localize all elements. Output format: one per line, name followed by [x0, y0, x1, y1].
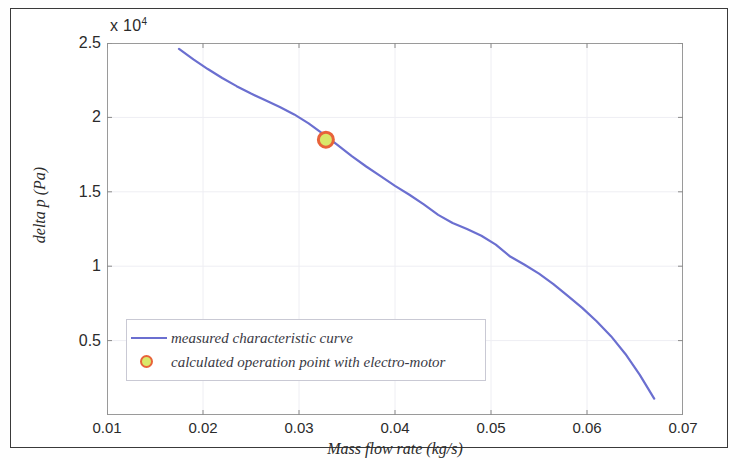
- chart-legend: measured characteristic curve calculated…: [126, 319, 486, 381]
- legend-label-measured-curve: measured characteristic curve: [171, 330, 353, 347]
- legend-item-measured-curve: measured characteristic curve: [127, 326, 485, 350]
- y-axis-title: delta p (Pa): [31, 105, 49, 305]
- legend-label-operation-point: calculated operation point with electro-…: [171, 354, 445, 371]
- operation-point-marker: [318, 132, 333, 147]
- circle-marker-icon: [140, 355, 153, 368]
- figure-container: x 104 0.511.522.5 0.010.020.030.040.050.…: [0, 0, 740, 460]
- legend-item-operation-point: calculated operation point with electro-…: [127, 350, 485, 374]
- y-axis-exponent-text: x 10: [110, 17, 141, 34]
- y-axis-exponent-label: x 104: [110, 16, 147, 35]
- x-axis-tick-label: 0.02: [188, 419, 217, 436]
- y-axis-tick-label: 2: [92, 108, 101, 126]
- y-axis-tick-label: 2.5: [79, 34, 101, 52]
- x-axis-tick-label: 0.06: [572, 419, 601, 436]
- legend-line-sample: [127, 327, 171, 349]
- x-axis-tick-label: 0.03: [284, 419, 313, 436]
- x-axis-tick-label: 0.04: [380, 419, 409, 436]
- y-axis-tick-labels: 0.511.522.5: [55, 43, 101, 415]
- operation-point-circle: [318, 132, 333, 147]
- y-axis-tick-label: 0.5: [79, 332, 101, 350]
- x-axis-tick-label: 0.01: [92, 419, 121, 436]
- x-axis-title: Mass flow rate (kg/s): [107, 440, 683, 458]
- x-axis-tick-label: 0.05: [476, 419, 505, 436]
- y-axis-tick-label: 1: [92, 257, 101, 275]
- x-axis-tick-label: 0.07: [668, 419, 697, 436]
- legend-marker-sample: [127, 351, 171, 373]
- y-axis-exponent-power: 4: [141, 16, 147, 27]
- y-axis-tick-label: 1.5: [79, 183, 101, 201]
- line-swatch-icon: [131, 337, 167, 339]
